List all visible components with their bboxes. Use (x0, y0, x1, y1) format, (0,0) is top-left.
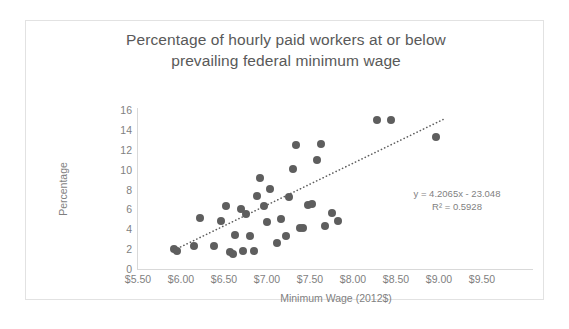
data-point (334, 217, 342, 225)
x-axis-tick-label: $9.00 (426, 273, 452, 285)
data-point (173, 247, 181, 255)
data-point (317, 140, 325, 148)
data-point (313, 156, 321, 164)
data-point (292, 141, 300, 149)
data-point (210, 242, 218, 250)
y-axis-tick-label: 8 (126, 184, 132, 196)
regression-annotation: y = 4.2065x - 23.048 R² = 0.5928 (392, 187, 522, 213)
regression-equation: y = 4.2065x - 23.048 (392, 187, 522, 200)
y-axis-tick-label: 10 (120, 164, 132, 176)
y-axis-title: Percentage (57, 162, 69, 216)
y-axis-tick-label: 4 (126, 223, 132, 235)
x-axis-tick-label: $8.00 (340, 273, 366, 285)
data-point (256, 174, 264, 182)
x-axis-line (137, 269, 533, 270)
y-axis-tick-label: 12 (120, 144, 132, 156)
data-point (246, 232, 254, 240)
x-axis-tick-label: $8.50 (383, 273, 409, 285)
x-axis-tick-label: $6.50 (211, 273, 237, 285)
x-axis-tick-label: $9.50 (469, 273, 495, 285)
r-squared-value: R² = 0.5928 (392, 200, 522, 213)
data-point (260, 202, 268, 210)
data-point (387, 116, 395, 124)
x-axis-tick-label: $7.00 (254, 273, 280, 285)
y-axis-tick-label: 6 (126, 203, 132, 215)
data-point (239, 247, 247, 255)
y-axis-tick-label: 14 (120, 124, 132, 136)
x-axis-tick-label: $6.00 (168, 273, 194, 285)
chart-title-line-2: prevailing federal minimum wage (66, 50, 506, 71)
data-point (229, 250, 237, 258)
chart-title: Percentage of hourly paid workers at or … (66, 29, 506, 71)
x-axis-tick-label: $5.50 (125, 273, 151, 285)
data-point (190, 242, 198, 250)
chart-container: Percentage of hourly paid workers at or … (25, 20, 544, 300)
data-point (289, 165, 297, 173)
data-point (266, 185, 274, 193)
x-axis-title: Minimum Wage (2012$) (138, 292, 534, 304)
data-point (373, 116, 381, 124)
y-axis-tick-label: 16 (120, 104, 132, 116)
y-axis-tick-label: 2 (126, 243, 132, 255)
chart-title-line-1: Percentage of hourly paid workers at or … (66, 29, 506, 50)
x-axis-tick-label: $7.50 (297, 273, 323, 285)
